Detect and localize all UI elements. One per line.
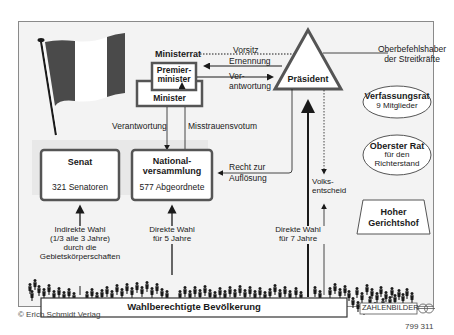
nationalversammlung-label-1: National- (132, 156, 212, 166)
hoher-gerichtshof-label-1: Hoher (357, 207, 430, 217)
misstrauensvotum-label: Misstrauensvotum (188, 122, 257, 132)
direkte-wahl-7-label-2: für 7 Jahre (268, 235, 328, 244)
flag-icon (38, 33, 126, 135)
verfassungsrat-label: Verfassungsrat (363, 91, 431, 101)
senat-members: 321 Senatoren (41, 183, 119, 193)
verantwortung-pres-label-2: antwortung (229, 82, 271, 92)
oberbefehlshaber-label-2: der Streitkräfte (372, 55, 452, 65)
verfassungsrat-members: 9 Mitglieder (363, 102, 431, 111)
aufloesung-label: Auflösung (229, 174, 267, 184)
verantwortung-label: Verantwortung (112, 122, 167, 132)
zahlenbilder-brand: ZAHLENBILDER (362, 304, 417, 312)
oberster-rat-label-3: Richterstand (363, 160, 431, 169)
nationalversammlung-label-2: versammlung (132, 166, 212, 176)
recht-zur-label: Recht zur (229, 163, 265, 173)
chart-number: 799 311 (405, 322, 433, 331)
zahlenbilder-logo-icon (417, 304, 435, 313)
praesident-label: Präsident (278, 74, 338, 84)
senat-label: Senat (41, 157, 119, 167)
nationalversammlung-members: 577 Abgeordnete (132, 183, 212, 193)
minister-label: Minister (137, 94, 202, 104)
vorsitz-label: Vorsitz (233, 46, 259, 56)
ernennung-label: Ernennung (229, 57, 271, 67)
premierminister-label-2: minister (152, 75, 196, 85)
volksentscheid-label-2: entscheid (312, 187, 346, 196)
copyright: © Erich Schmidt Verlag (18, 310, 100, 319)
direkte-wahl-5-label-2: für 5 Jahre (142, 235, 202, 244)
hoher-gerichtshof-label-2: Gerichtshof (357, 218, 430, 228)
indirekte-wahl-label-4: Gebietskörperschaften (35, 253, 125, 262)
ministerrat-label: Ministerrat (155, 49, 201, 59)
